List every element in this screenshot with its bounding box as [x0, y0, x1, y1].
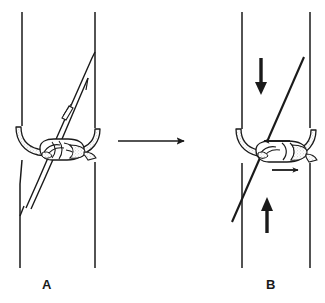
panel-b-hitch	[236, 129, 317, 162]
panel-label-b: B	[266, 278, 276, 291]
panel-a-rope-strand	[20, 52, 95, 216]
panel-b	[232, 12, 317, 268]
panel-a-hitch	[16, 127, 100, 160]
arrow-pole-down	[255, 58, 267, 95]
panel-b-pole	[242, 12, 310, 268]
panel-a-knot-core	[40, 139, 85, 160]
arrow-pole-up	[261, 197, 273, 233]
panel-label-a: A	[42, 278, 52, 291]
panel-b-knot-core	[256, 141, 307, 162]
knot-diagram-svg	[0, 0, 325, 303]
figure-container: A B	[0, 0, 325, 303]
panel-a	[16, 12, 100, 268]
